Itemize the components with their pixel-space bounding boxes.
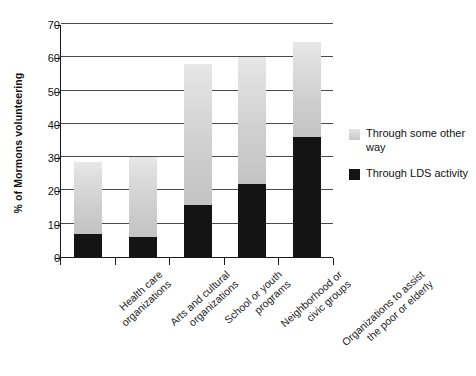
chart-legend: Through some other wayThrough LDS activi… xyxy=(349,127,473,194)
black-swatch-icon xyxy=(349,169,360,180)
y-tick-label: 60 xyxy=(26,52,60,64)
bar-column[interactable] xyxy=(238,57,266,257)
x-axis-label-line: Organizations to assist xyxy=(340,268,427,348)
x-axis-label: Organizations to assistthe poor or elder… xyxy=(340,268,436,358)
x-axis-label-line: the poor or elderly xyxy=(348,277,435,357)
y-tick-label: 50 xyxy=(26,86,60,98)
plot-area xyxy=(60,25,333,258)
bar-segment-lds-activity[interactable] xyxy=(129,237,157,257)
bar-column[interactable] xyxy=(184,64,212,257)
bar-segment-lds-activity[interactable] xyxy=(184,205,212,257)
y-tick-label: 10 xyxy=(26,219,60,231)
legend-item-label: Through some other way xyxy=(366,127,473,154)
bar-segment-other-way[interactable] xyxy=(184,64,212,205)
bar-column[interactable] xyxy=(293,42,321,257)
bar-segment-other-way[interactable] xyxy=(238,57,266,183)
bar-column[interactable] xyxy=(74,162,102,257)
gridline xyxy=(61,23,333,24)
x-axis-labels: Health careorganizationsArts and cultura… xyxy=(0,262,400,376)
bar-segment-lds-activity[interactable] xyxy=(293,137,321,257)
bar-segment-other-way[interactable] xyxy=(293,42,321,137)
y-axis-ticks: 010203040506070 xyxy=(0,25,60,258)
bar-segment-lds-activity[interactable] xyxy=(74,234,102,257)
bar-segment-other-way[interactable] xyxy=(129,157,157,237)
bar-segment-lds-activity[interactable] xyxy=(238,184,266,257)
x-axis-label: Health careorganizations xyxy=(110,268,173,328)
legend-item-label: Through LDS activity xyxy=(366,167,468,181)
x-axis-label: Neighborhood orcivic groups xyxy=(278,268,353,339)
y-tick-label: 30 xyxy=(26,152,60,164)
y-tick-label: 40 xyxy=(26,119,60,131)
legend-item[interactable]: Through LDS activity xyxy=(349,167,473,181)
bar-segment-other-way[interactable] xyxy=(74,162,102,234)
gray-swatch-icon xyxy=(349,129,360,140)
legend-item[interactable]: Through some other way xyxy=(349,127,473,154)
bar-column[interactable] xyxy=(129,157,157,257)
y-tick-label: 20 xyxy=(26,185,60,197)
y-tick-label: 70 xyxy=(26,19,60,31)
stacked-bar-chart: % of Mormons volunteering 01020304050607… xyxy=(0,0,476,376)
